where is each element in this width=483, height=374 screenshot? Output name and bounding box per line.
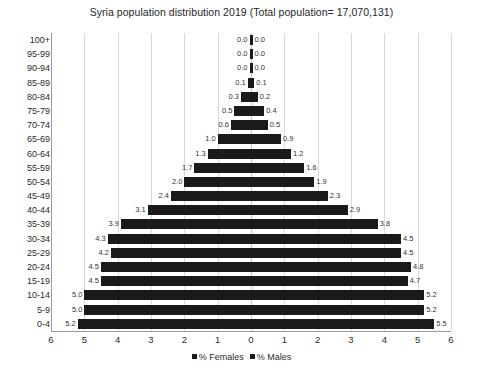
- x-tick-label: 3: [138, 334, 164, 345]
- y-axis-label-55-59: 55-59: [4, 161, 50, 175]
- x-tick-label: 6: [438, 334, 464, 345]
- data-label-females: 0.3: [217, 91, 239, 102]
- pyramid-row: 2.42.3: [51, 189, 451, 203]
- data-label-males: 0.2: [260, 91, 282, 102]
- pyramid-row: 5.05.2: [51, 303, 451, 317]
- data-label-males: 2.9: [350, 204, 372, 215]
- pyramid-row: 1.00.9: [51, 132, 451, 146]
- x-axis-line: [51, 331, 451, 332]
- x-tick-label: 1: [271, 334, 297, 345]
- legend-label: % Males: [257, 352, 292, 362]
- data-label-females: 0.0: [226, 48, 248, 59]
- bar-males: [251, 92, 258, 102]
- y-axis-label-45-49: 45-49: [4, 189, 50, 203]
- y-axis-label-85-89: 85-89: [4, 76, 50, 90]
- pyramid-row: 0.50.4: [51, 104, 451, 118]
- bar-females: [148, 205, 251, 215]
- y-axis-label-65-69: 65-69: [4, 132, 50, 146]
- legend-item[interactable]: % Females: [192, 352, 244, 362]
- data-label-females: 3.1: [124, 204, 146, 215]
- pyramid-row: 0.00.0: [51, 47, 451, 61]
- y-axis-label-25-29: 25-29: [4, 246, 50, 260]
- y-axis-label-75-79: 75-79: [4, 104, 50, 118]
- bar-males: [251, 248, 401, 258]
- pyramid-row: 5.05.2: [51, 288, 451, 302]
- bar-males: [251, 35, 253, 45]
- bar-males: [251, 134, 281, 144]
- gridline-6: [451, 33, 452, 331]
- pyramid-row: 0.30.2: [51, 90, 451, 104]
- data-label-females: 4.2: [87, 247, 109, 258]
- pyramid-row: 2.01.9: [51, 175, 451, 189]
- bar-males: [251, 163, 304, 173]
- data-label-females: 4.5: [77, 261, 99, 272]
- bar-females: [84, 290, 251, 300]
- x-tick-label: 3: [338, 334, 364, 345]
- pyramid-row: 4.34.5: [51, 232, 451, 246]
- data-label-females: 3.9: [97, 218, 119, 229]
- bar-males: [251, 234, 401, 244]
- bar-females: [78, 319, 251, 329]
- y-axis-label-30-34: 30-34: [4, 232, 50, 246]
- data-label-females: 2.4: [147, 190, 169, 201]
- data-label-males: 5.2: [426, 304, 448, 315]
- bar-males: [251, 120, 268, 130]
- bar-females: [84, 305, 251, 315]
- y-axis-label-50-54: 50-54: [4, 175, 50, 189]
- y-axis-label-35-39: 35-39: [4, 217, 50, 231]
- y-axis-label-20-24: 20-24: [4, 260, 50, 274]
- bar-males: [251, 63, 253, 73]
- bar-males: [251, 205, 348, 215]
- x-tick-label: 2: [305, 334, 331, 345]
- y-axis-label-90-94: 90-94: [4, 61, 50, 75]
- pyramid-row: 5.25.5: [51, 317, 451, 331]
- pyramid-row: 0.10.1: [51, 76, 451, 90]
- y-axis-label-100plus: 100+: [4, 33, 50, 47]
- data-label-males: 4.8: [413, 261, 435, 272]
- data-label-males: 5.2: [426, 289, 448, 300]
- y-axis-label-60-64: 60-64: [4, 147, 50, 161]
- data-label-males: 4.7: [410, 275, 432, 286]
- x-tick-label: 4: [105, 334, 131, 345]
- bar-males: [251, 319, 434, 329]
- bar-females: [234, 106, 251, 116]
- bar-males: [251, 276, 408, 286]
- data-label-females: 5.2: [54, 318, 76, 329]
- bar-females: [101, 262, 251, 272]
- population-pyramid-chart: Syria population distribution 2019 (Tota…: [0, 0, 483, 374]
- bar-females: [171, 191, 251, 201]
- x-tick-label: 4: [371, 334, 397, 345]
- bar-males: [251, 78, 254, 88]
- bar-females: [218, 134, 251, 144]
- bar-females: [101, 276, 251, 286]
- data-label-males: 5.5: [436, 318, 458, 329]
- bar-females: [231, 120, 251, 130]
- x-tick-label: 1: [205, 334, 231, 345]
- data-label-females: 5.0: [60, 304, 82, 315]
- pyramid-row: 4.54.7: [51, 274, 451, 288]
- data-label-females: 4.5: [77, 275, 99, 286]
- bar-males: [251, 262, 411, 272]
- data-label-males: 0.5: [270, 119, 292, 130]
- pyramid-row: 1.31.2: [51, 147, 451, 161]
- data-label-males: 2.3: [330, 190, 352, 201]
- x-tick-label: 2: [171, 334, 197, 345]
- data-label-females: 4.3: [84, 233, 106, 244]
- legend-item[interactable]: % Males: [250, 352, 292, 362]
- bar-males: [251, 49, 253, 59]
- bar-males: [251, 191, 328, 201]
- y-axis-age-groups: 100+95-9990-9485-8980-8475-7970-7465-696…: [0, 33, 50, 331]
- data-label-females: 0.6: [207, 119, 229, 130]
- y-axis-label-95-99: 95-99: [4, 47, 50, 61]
- data-label-females: 1.3: [184, 148, 206, 159]
- pyramid-row: 0.00.0: [51, 61, 451, 75]
- data-label-males: 4.5: [403, 247, 425, 258]
- y-axis-label-0-4: 0-4: [4, 317, 50, 331]
- pyramid-row: 3.12.9: [51, 203, 451, 217]
- y-axis-label-70-74: 70-74: [4, 118, 50, 132]
- x-tick-label: 5: [405, 334, 431, 345]
- data-label-males: 0.9: [283, 133, 305, 144]
- pyramid-row: 3.93.8: [51, 217, 451, 231]
- data-label-females: 0.0: [226, 62, 248, 73]
- bar-females: [121, 219, 251, 229]
